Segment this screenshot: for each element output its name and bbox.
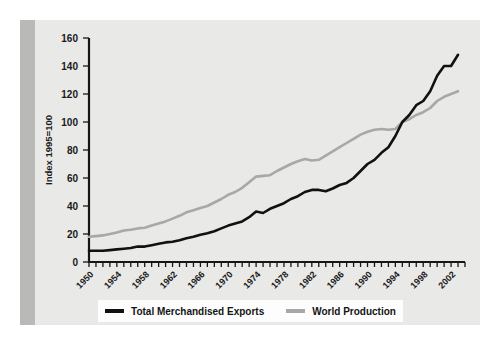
- x-axis-tick-label: 1966: [186, 269, 207, 290]
- x-axis-tick-label: 1958: [130, 269, 151, 290]
- x-axis-tick-label: 1974: [241, 269, 262, 290]
- x-axis-tick-label: 1962: [158, 269, 179, 290]
- legend-entry-total-merchandised-exports: Total Merchandised Exports: [105, 306, 264, 317]
- y-axis-tick-label: 100: [61, 117, 78, 128]
- y-axis-title: Index 1995=100: [43, 115, 54, 185]
- y-axis-tick-label: 20: [67, 229, 79, 240]
- figure-container: 020406080100120140160 195019541958196219…: [0, 0, 497, 345]
- x-axis-tick-label: 1998: [408, 269, 429, 290]
- legend-label-total-merchandised-exports: Total Merchandised Exports: [131, 306, 264, 317]
- series-line-world-production: [89, 91, 458, 237]
- x-axis-tick-label: 1978: [269, 269, 290, 290]
- x-axis-tick-label: 1982: [297, 269, 318, 290]
- y-axis-tick-label: 60: [67, 173, 79, 184]
- x-axis-tick-label: 1994: [381, 269, 402, 290]
- legend-entry-world-production: World Production: [286, 306, 396, 317]
- x-axis-tick-label: 1954: [102, 269, 123, 290]
- chart-plot-area: 020406080100120140160 195019541958196219…: [0, 0, 497, 345]
- y-axis-tick-label: 160: [61, 33, 78, 44]
- y-axis-tick-label: 80: [67, 145, 79, 156]
- y-axis-tick-label: 120: [61, 89, 78, 100]
- series-line-total-merchandised-exports: [89, 55, 458, 251]
- line-chart: 020406080100120140160 195019541958196219…: [0, 0, 497, 345]
- legend-swatch-gray-icon: [286, 309, 305, 312]
- y-axis-tick-label: 140: [61, 61, 78, 72]
- x-axis-tick-label: 1990: [353, 269, 374, 290]
- x-axis-tick-label: 1986: [325, 269, 346, 290]
- x-axis-tick-label: 1950: [74, 269, 95, 290]
- legend-swatch-black-icon: [105, 309, 124, 312]
- x-axis-tick-labels: 1950195419581962196619701974197819821986…: [74, 269, 457, 290]
- y-axis-tick-labels: 020406080100120140160: [61, 33, 78, 268]
- legend-label-world-production: World Production: [312, 306, 396, 317]
- chart-legend: Total Merchandised Exports World Product…: [98, 300, 403, 322]
- x-axis-tick-label: 1970: [213, 269, 234, 290]
- y-axis-tick-label: 0: [72, 257, 78, 268]
- y-axis-tick-label: 40: [67, 201, 79, 212]
- x-axis-tick-label: 2002: [436, 269, 457, 290]
